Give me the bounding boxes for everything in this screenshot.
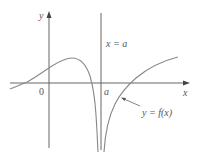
x-axis-arrow-icon	[183, 81, 190, 86]
function-graph-diagram: y x 0 a x = a y = f(x)	[0, 0, 199, 155]
pointer-arrow-icon	[121, 98, 126, 102]
origin-label: 0	[39, 86, 44, 97]
x-axis	[10, 81, 190, 86]
curve-left-branch	[10, 58, 98, 152]
y-axis-arrow-icon	[47, 11, 52, 18]
curve-label: y = f(x)	[141, 107, 173, 119]
x-axis-label: x	[182, 87, 188, 98]
y-axis-label: y	[38, 10, 44, 21]
asymptote-point-label: a	[104, 86, 109, 97]
curve-pointer	[121, 98, 140, 107]
curve-right-branch	[104, 57, 178, 152]
y-axis	[47, 11, 52, 148]
asymptote-equation-label: x = a	[105, 38, 127, 49]
